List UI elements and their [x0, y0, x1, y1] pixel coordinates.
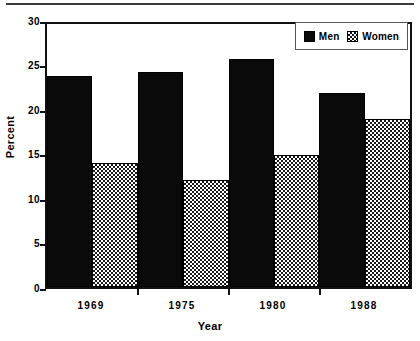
x-tick-label-1975: 1975: [147, 300, 217, 311]
bar-women-1988: [365, 119, 410, 287]
x-tick-mark-2: [228, 289, 230, 295]
bar-men-1988: [319, 93, 364, 287]
y-tick-label-20: 20: [14, 106, 40, 116]
bar-men-1975: [138, 72, 183, 287]
y-tick-label-25: 25: [14, 61, 40, 71]
bar-group-1980: [229, 24, 320, 287]
x-tick-label-1980: 1980: [238, 300, 308, 311]
bar-chart-figure: Percent 30 25 20 15 10 5 0: [0, 0, 420, 341]
y-tick-label-30: 30: [14, 17, 40, 27]
legend-item-men: Men: [304, 31, 340, 42]
legend-item-women: Women: [347, 31, 399, 42]
y-tick-label-0: 0: [14, 284, 40, 294]
legend-swatch-women-icon: [347, 31, 358, 42]
y-tick-label-10: 10: [14, 195, 40, 205]
x-tick-mark-3: [319, 289, 321, 295]
bar-group-1969: [47, 24, 138, 287]
x-tick-label-1969: 1969: [56, 300, 126, 311]
bar-group-1988: [319, 24, 410, 287]
bar-men-1980: [229, 59, 274, 287]
chart-legend: Men Women: [295, 22, 408, 50]
bar-men-1969: [47, 76, 92, 287]
legend-label-men: Men: [319, 31, 340, 42]
x-tick-mark-1: [137, 289, 139, 295]
bars-container: [47, 24, 410, 287]
x-tick-label-1988: 1988: [329, 300, 399, 311]
bar-group-1975: [138, 24, 229, 287]
y-tick-label-5: 5: [14, 239, 40, 249]
bar-women-1980: [274, 155, 319, 287]
legend-swatch-men-icon: [304, 31, 315, 42]
y-tick-label-15: 15: [14, 150, 40, 160]
bar-women-1975: [183, 180, 228, 287]
page-rule: [6, 3, 414, 5]
bar-women-1969: [92, 163, 137, 287]
legend-label-women: Women: [362, 31, 399, 42]
x-axis-label: Year: [0, 320, 420, 332]
y-tick-mark-0: [40, 289, 46, 291]
